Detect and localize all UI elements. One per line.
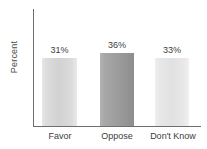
y-axis-label: Percent <box>9 27 19 87</box>
bar-oppose <box>100 53 134 126</box>
x-tick-label-oppose: Oppose <box>101 131 133 141</box>
bar-slot-favor: 31% <box>42 9 77 126</box>
x-tick-label-dont-know: Don't Know <box>150 131 196 141</box>
bar-value-dont-know: 33% <box>163 45 181 55</box>
bar-chart: Percent 31% 36% 33% Favor Oppose Don't K… <box>0 0 207 149</box>
bar-slot-oppose: 36% <box>100 9 134 126</box>
bar-favor <box>42 58 77 126</box>
plot-area: 31% 36% 33% <box>34 9 201 126</box>
bar-value-favor: 31% <box>50 45 68 55</box>
bar-value-oppose: 36% <box>108 40 126 50</box>
x-tick-label-favor: Favor <box>48 131 71 141</box>
x-axis-tick-labels: Favor Oppose Don't Know <box>34 131 201 147</box>
x-axis-line <box>33 126 201 127</box>
bar-slot-dont-know: 33% <box>155 9 189 126</box>
bar-dont-know <box>155 58 189 126</box>
